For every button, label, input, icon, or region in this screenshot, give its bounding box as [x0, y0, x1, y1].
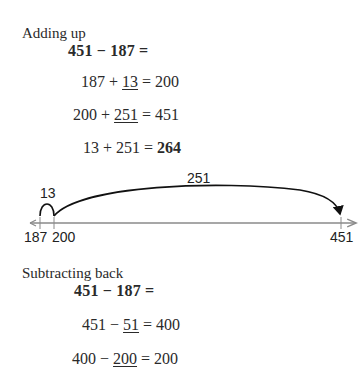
final-result: 264 [157, 139, 181, 156]
operand-b: 251 [116, 139, 140, 156]
operator: − [110, 316, 119, 333]
operand-a: 13 [83, 139, 99, 156]
operand-b-underlined: 200 [113, 350, 137, 367]
adding-step-1: 187 + 13 = 200 [81, 73, 179, 91]
equals-sign: = [141, 350, 150, 367]
operator: + [101, 106, 110, 123]
result: 200 [155, 73, 179, 90]
tick-label-451: 451 [330, 229, 354, 245]
jump-label-251: 251 [187, 170, 211, 186]
subtracting-back-heading: Subtracting back [22, 265, 123, 282]
jump-arc-251 [54, 185, 340, 216]
operand-b-underlined: 13 [122, 73, 138, 90]
adding-up-heading: Adding up [22, 25, 86, 42]
operand-a: 200 [73, 106, 97, 123]
result: 200 [154, 350, 178, 367]
subtracting-step-1: 451 − 51 = 400 [82, 316, 180, 334]
tick-label-200: 200 [52, 229, 76, 245]
operand-a: 451 [82, 316, 106, 333]
equals-sign: = [142, 73, 151, 90]
equals-sign: = [143, 316, 152, 333]
operand-b-underlined: 251 [114, 106, 138, 123]
operator: + [103, 139, 112, 156]
operand-a: 400 [72, 350, 96, 367]
tick-label-187: 187 [24, 229, 48, 245]
number-line-diagram: 13 251 187 200 451 [0, 160, 362, 245]
operator: − [100, 350, 109, 367]
result: 451 [155, 106, 179, 123]
adding-step-2: 200 + 251 = 451 [73, 106, 179, 124]
adding-up-problem: 451 − 187 = [68, 42, 148, 60]
result: 400 [156, 316, 180, 333]
operand-b-underlined: 51 [123, 316, 139, 333]
subtracting-step-2: 400 − 200 = 200 [72, 350, 178, 368]
jump-arc-13 [40, 204, 54, 216]
operand-a: 187 [81, 73, 105, 90]
equals-sign: = [144, 139, 153, 156]
operator: + [109, 73, 118, 90]
subtracting-back-problem: 451 − 187 = [74, 282, 154, 300]
jump-label-13: 13 [40, 185, 56, 201]
equals-sign: = [142, 106, 151, 123]
adding-step-3: 13 + 251 = 264 [83, 139, 181, 157]
